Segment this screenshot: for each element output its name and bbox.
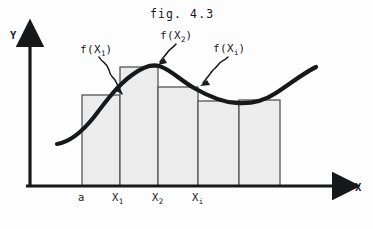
tick-x1-subscript: 1 bbox=[119, 197, 124, 206]
tick-x2: X2 bbox=[152, 192, 163, 203]
f-x1-label: f(X1) bbox=[80, 44, 113, 55]
figure-container: fig. 4.3 Y X f(X1)f(X2)f(Xi) aX1X2Xi bbox=[0, 0, 373, 229]
tick-x1: X1 bbox=[112, 192, 123, 203]
tick-x2-subscript: 2 bbox=[159, 197, 164, 206]
bars-group bbox=[82, 67, 280, 186]
y-axis-label: Y bbox=[10, 30, 17, 41]
tick-xi-subscript: i bbox=[199, 197, 204, 206]
f-xi-label-main: f(X bbox=[213, 42, 234, 55]
f-x1-label-close: ) bbox=[106, 43, 113, 56]
f-xi-label-close: ) bbox=[239, 42, 246, 55]
f-x2-label-close: ) bbox=[186, 29, 193, 42]
f-xi-label-subscript: i bbox=[234, 48, 239, 57]
f-x2-label-subscript: 2 bbox=[181, 35, 186, 44]
f-x1-label-main: f(X bbox=[80, 43, 101, 56]
f-xi-arrow bbox=[203, 57, 228, 83]
tick-x1-main: X bbox=[112, 191, 119, 203]
tick-xi-main: X bbox=[192, 191, 199, 203]
f-x2-label-main: f(X bbox=[160, 29, 181, 42]
f-x2-arrow bbox=[160, 44, 176, 62]
figure-title: fig. 4.3 bbox=[150, 9, 214, 21]
bar-2 bbox=[120, 67, 158, 186]
tick-xi: Xi bbox=[192, 192, 203, 203]
x-axis-label: X bbox=[355, 182, 362, 193]
bar-4 bbox=[198, 101, 239, 186]
f-xi-label: f(Xi) bbox=[213, 43, 246, 54]
bar-3 bbox=[158, 87, 198, 186]
tick-x2-main: X bbox=[152, 191, 159, 203]
f-x1-label-subscript: 1 bbox=[101, 49, 106, 58]
tick-a: a bbox=[78, 192, 85, 203]
f-x2-label: f(X2) bbox=[160, 30, 193, 41]
tick-a-main: a bbox=[78, 191, 85, 203]
bar-5 bbox=[239, 100, 280, 186]
